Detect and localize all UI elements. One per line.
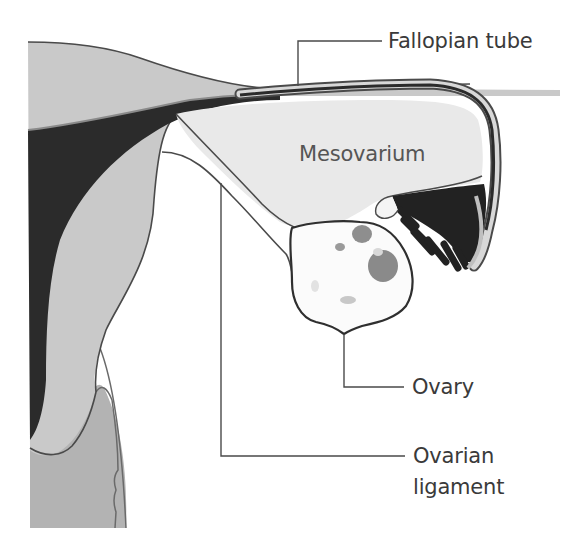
label-ovarian-ligament-line2: ligament bbox=[413, 473, 504, 502]
label-mesovarium: Mesovarium bbox=[299, 140, 425, 169]
leader-fallopian-tube bbox=[298, 41, 382, 86]
label-ovary: Ovary bbox=[412, 373, 474, 402]
ovary bbox=[290, 221, 412, 334]
label-fallopian-tube: Fallopian tube bbox=[388, 27, 533, 56]
leader-ovary bbox=[344, 334, 404, 387]
label-ovarian-ligament-line1: Ovarian bbox=[413, 442, 494, 471]
